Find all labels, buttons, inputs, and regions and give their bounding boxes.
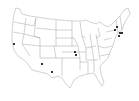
marker-northeast-1[interactable] [116,26,118,28]
us-outline [12,8,130,88]
us-map [0,0,139,101]
marker-kansas-city-1[interactable] [74,51,76,53]
marker-northeast-5[interactable] [118,35,120,37]
marker-san-francisco[interactable] [13,43,15,45]
marker-el-paso[interactable] [51,71,53,73]
marker-arizona[interactable] [41,63,43,65]
marker-kansas-city-2[interactable] [75,54,77,56]
us-map-svg [0,0,139,101]
marker-northeast-2[interactable] [114,29,116,31]
marker-northeast-3[interactable] [119,32,121,34]
marker-northeast-4[interactable] [121,32,123,34]
